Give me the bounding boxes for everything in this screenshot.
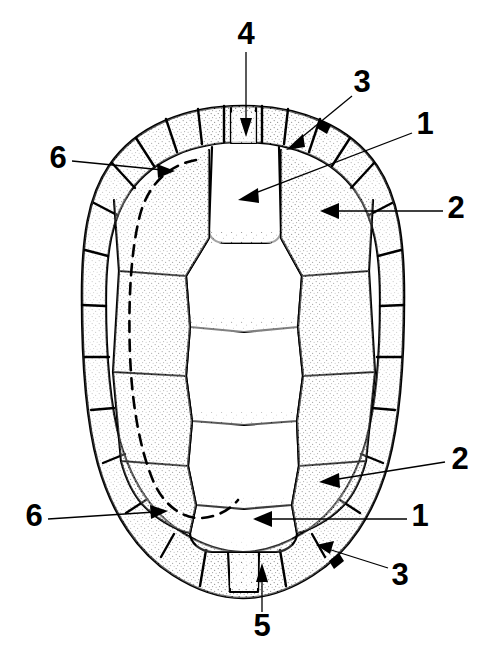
- label-1-bottom: 1: [411, 498, 428, 533]
- turtle-carapace-figure: 4 3 1 2 6 2 1 3 6 5: [0, 0, 487, 667]
- label-6-top: 6: [49, 140, 66, 175]
- carapace-body: [82, 106, 404, 598]
- label-1-top: 1: [416, 106, 433, 141]
- label-4: 4: [237, 16, 255, 51]
- carapace-illustration: 4 3 1 2 6 2 1 3 6 5: [0, 0, 487, 667]
- label-6-bottom: 6: [25, 498, 42, 533]
- label-3-top: 3: [353, 64, 370, 99]
- label-2-top: 2: [447, 190, 464, 225]
- label-2-bottom: 2: [451, 441, 468, 476]
- label-3-bottom: 3: [391, 557, 408, 592]
- label-5: 5: [253, 608, 270, 643]
